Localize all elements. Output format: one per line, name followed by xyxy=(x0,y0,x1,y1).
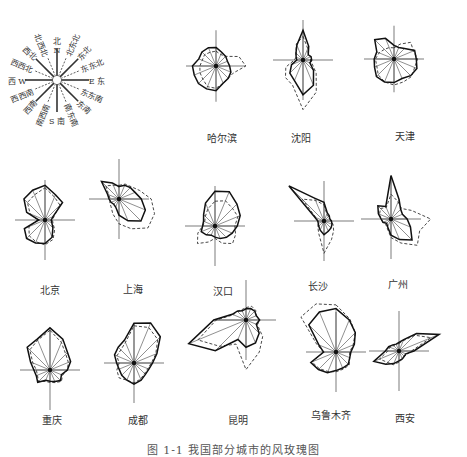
city-label: 成都 xyxy=(128,412,148,427)
wind-rose-12 xyxy=(369,311,439,391)
wind-rose-3 xyxy=(15,180,75,260)
compass-label-n: 北 xyxy=(53,35,61,46)
dashed-series xyxy=(375,42,417,85)
solid-series xyxy=(192,47,230,90)
city-label: 西安 xyxy=(395,410,415,425)
city-label: 上海 xyxy=(123,281,143,296)
city-label: 北京 xyxy=(40,282,60,297)
wind-rose-9 xyxy=(104,323,164,403)
compass-north-letter: N xyxy=(54,46,61,55)
compass-label-w: 西 W xyxy=(8,75,27,86)
dashed-series xyxy=(301,304,355,372)
city-label: 重庆 xyxy=(42,412,62,427)
solid-series xyxy=(189,309,260,351)
wind-rose-4 xyxy=(89,159,155,239)
wind-rose-0 xyxy=(186,30,246,102)
solid-series xyxy=(101,181,145,220)
city-label: 哈尔滨 xyxy=(207,130,237,145)
solid-series xyxy=(309,309,355,373)
city-label: 汉口 xyxy=(213,283,233,298)
figure-caption: 图 1-1 我国部分城市的风玫瑰图 xyxy=(147,441,321,457)
compass-label-e: E 东 xyxy=(89,75,105,86)
city-label: 沈阳 xyxy=(291,130,311,145)
city-label: 乌鲁木齐 xyxy=(311,407,351,422)
solid-series xyxy=(374,333,439,364)
dashed-series xyxy=(198,306,263,369)
solid-series xyxy=(115,323,161,384)
wind-rose-8 xyxy=(20,328,80,410)
dashed-series xyxy=(106,184,155,229)
wind-rose-1 xyxy=(273,20,333,110)
wind-rose-5 xyxy=(185,186,245,266)
city-label: 广州 xyxy=(388,276,408,291)
city-label: 昆明 xyxy=(228,412,248,427)
dashed-series xyxy=(380,335,432,365)
solid-series xyxy=(24,185,63,243)
wind-rose-6 xyxy=(289,181,354,261)
wind-rose-11 xyxy=(301,304,366,392)
compass-label-s: S 南 xyxy=(49,115,65,126)
city-label: 长沙 xyxy=(308,278,328,293)
wind-rose-2 xyxy=(364,26,424,93)
wind-rose-7 xyxy=(361,176,431,259)
city-label: 天津 xyxy=(395,128,415,143)
